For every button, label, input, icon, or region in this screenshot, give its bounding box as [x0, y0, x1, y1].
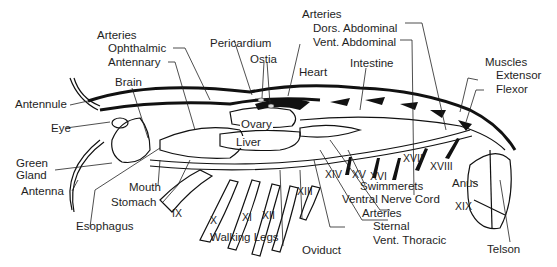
segment-ix: IX [172, 207, 182, 219]
segment-xvi: XVI [370, 170, 387, 182]
segment-xi: XI [242, 211, 252, 223]
label-pericardium: Pericardium [210, 37, 271, 49]
label-flexor: Flexor [496, 83, 528, 95]
label-intestine: Intestine [350, 57, 393, 69]
label-mouth: Mouth [129, 181, 161, 193]
label-eye: Eye [51, 122, 71, 134]
label-brain: Brain [115, 76, 142, 88]
label-liver: Liver [235, 136, 262, 148]
label-antennary: Antennary [108, 56, 160, 68]
label-walking-legs: Walking Legs [210, 231, 279, 243]
label-antenna: Antenna [21, 185, 64, 197]
label-stomach: Stomach [111, 196, 156, 208]
label-arteries-abd: Arteries [302, 8, 342, 20]
label-ostia: Ostia [250, 53, 277, 65]
label-green-gland-2: Gland [16, 169, 47, 181]
label-antennule: Antennule [15, 98, 67, 110]
label-anus: Anus [452, 177, 478, 189]
label-muscles: Muscles [485, 56, 527, 68]
label-vent-thoracic: Vent. Thoracic [373, 234, 446, 246]
label-sternal: Sternal [373, 220, 409, 232]
label-telson: Telson [487, 243, 520, 255]
segment-xv: XV [352, 168, 366, 180]
label-ophthalmic: Ophthalmic [108, 42, 166, 54]
label-dors-abdominal: Dors. Abdominal [313, 22, 397, 34]
label-arteries-head: Arteries [97, 29, 137, 41]
segment-xviii: XVIII [430, 160, 453, 172]
segment-x: X [210, 214, 217, 226]
label-esophagus: Esophagus [76, 220, 134, 232]
label-ventral-nerve-cord: Ventral Nerve Cord [342, 193, 440, 205]
label-vent-abdominal: Vent. Abdominal [313, 36, 396, 48]
label-ovary: Ovary [240, 118, 273, 130]
segment-xii: XII [262, 209, 275, 221]
segment-xvii: XVII [403, 152, 423, 164]
label-oviduct: Oviduct [302, 244, 341, 256]
segment-xiii: XIII [297, 185, 313, 197]
segment-xiv: XIV [325, 168, 342, 180]
label-heart: Heart [299, 66, 327, 78]
label-arteries-vent: Arteries [362, 207, 402, 219]
label-green-gland-1: Green [16, 157, 48, 169]
label-extensor: Extensor [496, 69, 541, 81]
segment-xix: XIX [455, 200, 472, 212]
